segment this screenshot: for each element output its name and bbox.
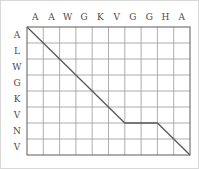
column-label: K [92, 12, 108, 22]
grid-lines [27, 27, 190, 155]
row-label: G [11, 78, 23, 88]
column-label: H [158, 12, 174, 22]
row-label: L [11, 46, 23, 56]
alignment-matrix-plot: AAWGKVGGHA ALWGKVNV [0, 0, 199, 169]
column-label: G [76, 12, 92, 22]
column-label: A [27, 12, 43, 22]
matrix-grid-svg [0, 0, 199, 169]
column-label: A [43, 12, 59, 22]
column-label: G [125, 12, 141, 22]
row-label: A [11, 30, 23, 40]
column-label: G [141, 12, 157, 22]
row-label: V [11, 110, 23, 120]
column-label: A [174, 12, 190, 22]
row-label: N [11, 126, 23, 136]
column-label: V [109, 12, 125, 22]
row-label: V [11, 142, 23, 152]
column-label: W [60, 12, 76, 22]
row-label: K [11, 94, 23, 104]
row-label: W [11, 62, 23, 72]
